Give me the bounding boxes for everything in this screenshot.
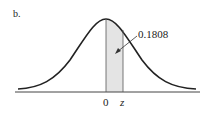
normal-curve-plot	[0, 0, 204, 117]
area-label: 0.1808	[138, 29, 168, 40]
tick-label-z: z	[120, 97, 124, 108]
tick-label-zero: 0	[103, 97, 109, 108]
